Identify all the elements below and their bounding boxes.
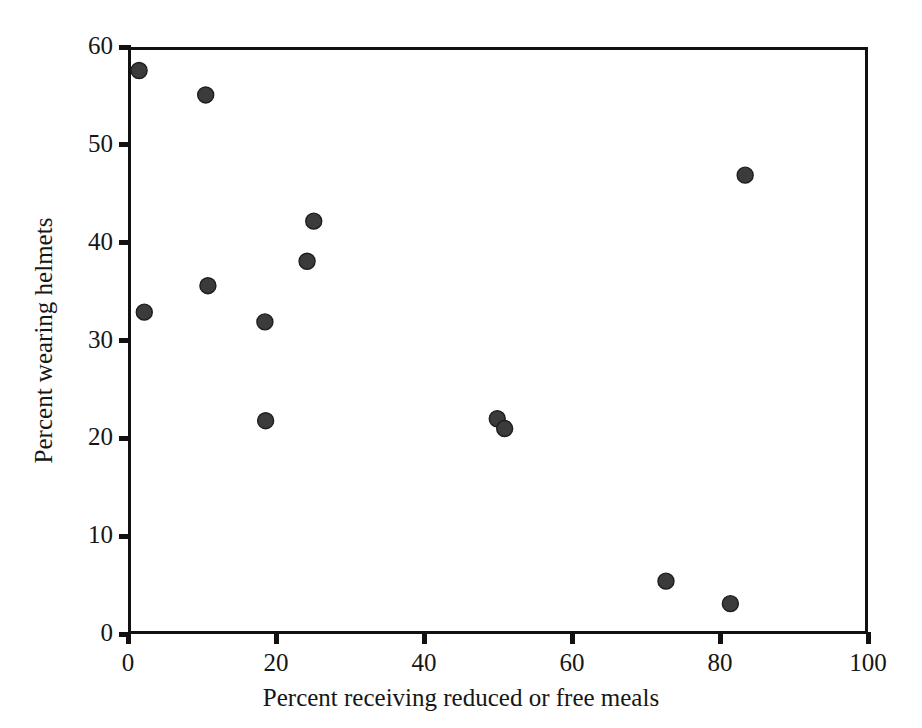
plot-frame [128, 47, 868, 634]
x-tick-mark [866, 632, 871, 644]
x-tick-mark [570, 632, 575, 644]
x-tick-label: 40 [389, 650, 459, 675]
y-tick-label: 20 [55, 424, 113, 449]
y-tick-mark [119, 534, 131, 539]
y-tick-mark [119, 142, 131, 147]
y-tick-label: 10 [55, 522, 113, 547]
x-tick-label: 0 [93, 650, 163, 675]
y-tick-mark [119, 240, 131, 245]
y-tick-label: 50 [55, 131, 113, 156]
y-tick-mark [119, 45, 131, 50]
x-tick-mark [422, 632, 427, 644]
x-tick-mark [274, 632, 279, 644]
x-tick-label: 60 [537, 650, 607, 675]
x-axis-title: Percent receiving reduced or free meals [0, 684, 922, 712]
y-tick-mark [119, 436, 131, 441]
y-tick-label: 0 [55, 620, 113, 645]
x-tick-mark [126, 632, 131, 644]
x-tick-label: 80 [685, 650, 755, 675]
x-tick-label: 100 [833, 650, 903, 675]
x-tick-mark [718, 632, 723, 644]
y-tick-label: 40 [55, 229, 113, 254]
y-tick-label: 30 [55, 327, 113, 352]
y-tick-mark [119, 338, 131, 343]
x-tick-label: 20 [241, 650, 311, 675]
y-tick-label: 60 [55, 33, 113, 58]
y-axis-title: Percent wearing helmets [26, 47, 62, 634]
scatter-chart: 0102030405060020406080100 Percent receiv… [0, 0, 922, 728]
